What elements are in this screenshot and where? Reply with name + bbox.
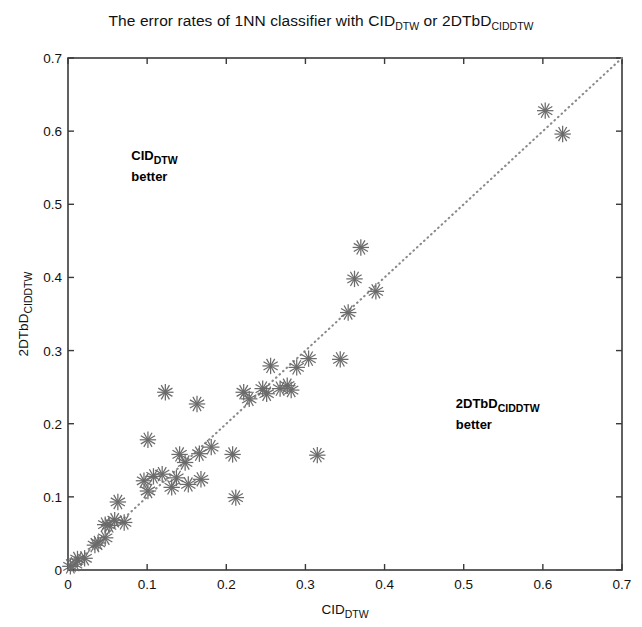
scatter-plot-canvas [0, 0, 642, 627]
annotation-cid-better-base: CID [131, 148, 153, 163]
x-axis-title: CIDDTW [321, 602, 368, 620]
data-point [554, 126, 570, 142]
y-tick-label-2: 0.2 [24, 416, 62, 431]
annotation-2dtbd-better-base: 2DTbD [456, 396, 498, 411]
data-point [346, 271, 362, 287]
x-tick-label-6: 0.6 [533, 577, 552, 592]
data-point [368, 283, 384, 299]
data-point [163, 479, 179, 495]
annotation-cid-better-line1: CIDDTW [131, 147, 177, 168]
data-point [353, 239, 369, 255]
data-point [140, 432, 156, 448]
y-tick-label-5: 0.5 [24, 197, 62, 212]
data-point [140, 483, 156, 499]
x-tick-label-5: 0.5 [454, 577, 473, 592]
y-axis-title-base: 2DTbD [16, 314, 31, 357]
y-tick-label-6: 0.6 [24, 124, 62, 139]
annotation-cid-better-sub: DTW [154, 153, 178, 165]
data-point [537, 102, 553, 118]
x-tick-label-0: 0 [64, 577, 72, 592]
data-point [189, 396, 205, 412]
data-point [110, 494, 126, 510]
annotation-2dtbd-better-line1: 2DTbDCIDDTW [456, 395, 540, 416]
y-axis-title: 2DTbDCIDDTW [16, 272, 34, 357]
data-point [168, 470, 184, 486]
data-point [154, 466, 170, 482]
x-tick-label-3: 0.3 [296, 577, 315, 592]
x-axis-title-sub: DTW [345, 608, 369, 620]
data-point [224, 446, 240, 462]
data-point [191, 446, 207, 462]
y-tick-label-1: 0.1 [24, 489, 62, 504]
x-tick-label-1: 0.1 [138, 577, 157, 592]
annotation-2dtbd-better-line2: better [456, 416, 540, 435]
data-point [332, 351, 348, 367]
data-point [157, 384, 173, 400]
data-point [203, 439, 219, 455]
y-tick-label-0: 0 [24, 563, 62, 578]
x-tick-label-2: 0.2 [217, 577, 236, 592]
x-tick-label-7: 0.7 [613, 577, 632, 592]
data-point [136, 473, 152, 489]
annotation-2dtbd-better: 2DTbDCIDDTW better [456, 395, 540, 435]
data-point [116, 514, 132, 530]
annotation-cid-better: CIDDTW better [131, 147, 177, 187]
x-tick-label-4: 0.4 [375, 577, 394, 592]
annotation-cid-better-line2: better [131, 168, 177, 187]
annotation-2dtbd-better-sub: CIDDTW [498, 402, 540, 414]
x-axis-title-base: CID [321, 602, 344, 617]
y-tick-label-7: 0.7 [24, 51, 62, 66]
data-point [309, 447, 325, 463]
y-axis-title-sub: CIDDTW [22, 272, 34, 314]
chart-figure: The error rates of 1NN classifier with C… [0, 0, 642, 627]
data-point [262, 358, 278, 374]
data-point [228, 489, 244, 505]
